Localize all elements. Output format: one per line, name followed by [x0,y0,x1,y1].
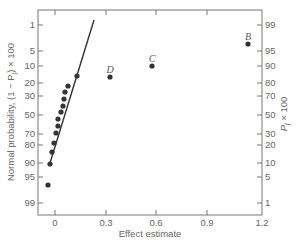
svg-text:80: 80 [24,139,35,150]
svg-text:20: 20 [265,139,276,150]
svg-text:5: 5 [265,171,270,182]
data-point [49,149,54,154]
data-point [74,73,79,78]
x-axis [55,10,207,215]
plot-frame [38,10,262,215]
left-axis [38,25,43,203]
svg-text:0.3: 0.3 [99,217,112,228]
data-point [60,103,65,108]
svg-text:70: 70 [265,90,276,101]
data-point [47,161,52,166]
data-point [58,109,63,114]
svg-text:95: 95 [24,171,35,182]
data-point [61,96,66,101]
svg-text:20: 20 [24,77,35,88]
x-axis-title: Effect estimate [119,228,182,239]
label-B: B [245,31,251,42]
left-axis-title: Normal probability, (1 − Pj) × 100 [5,43,18,181]
normal-probability-plot: 1 5 10 20 30 50 70 80 90 95 99 99 95 90 … [0,0,296,243]
data-point [65,83,70,88]
svg-text:95: 95 [265,45,276,56]
right-axis-title: Pj × 100 [278,97,291,132]
svg-text:1: 1 [265,197,270,208]
x-axis-labels: 0 0.3 0.6 0.9 1.2 [52,217,268,228]
data-point [53,130,58,135]
fit-line [50,20,94,163]
svg-text:0.6: 0.6 [149,217,162,228]
svg-text:90: 90 [265,60,276,71]
svg-text:10: 10 [24,60,35,71]
svg-text:0.9: 0.9 [200,217,213,228]
svg-text:99: 99 [265,19,276,30]
data-point [51,140,56,145]
right-axis-labels: 99 95 90 80 70 50 30 20 10 5 1 [265,19,276,208]
svg-text:90: 90 [24,157,35,168]
data-point [62,89,67,94]
data-point-B [245,41,250,46]
svg-text:1.2: 1.2 [255,217,268,228]
label-C: C [149,53,156,64]
svg-text:80: 80 [265,77,276,88]
svg-text:0: 0 [52,217,57,228]
right-axis [257,25,262,203]
data-point-D [107,74,112,79]
data-point [55,123,60,128]
data-point [55,116,60,121]
label-D: D [105,64,114,75]
svg-text:30: 30 [265,128,276,139]
svg-text:5: 5 [30,45,35,56]
svg-text:1: 1 [30,19,35,30]
svg-text:50: 50 [24,109,35,120]
svg-text:30: 30 [24,90,35,101]
left-axis-labels: 1 5 10 20 30 50 70 80 90 95 99 [24,19,35,208]
svg-text:99: 99 [24,197,35,208]
data-point-C [149,63,154,68]
svg-text:70: 70 [24,128,35,139]
svg-text:10: 10 [265,157,276,168]
data-point [45,182,50,187]
svg-text:50: 50 [265,109,276,120]
